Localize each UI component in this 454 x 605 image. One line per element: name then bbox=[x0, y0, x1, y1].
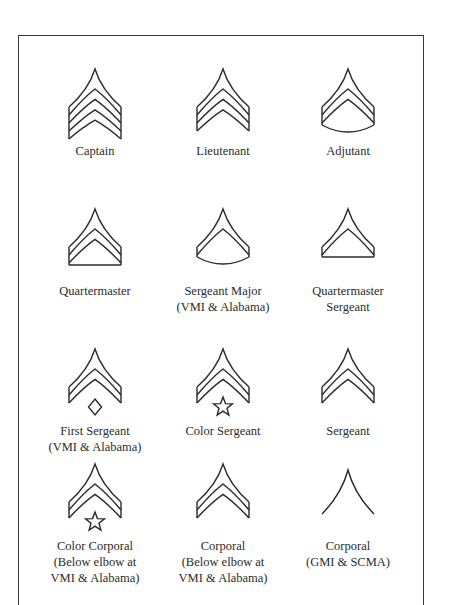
insignia-sergeant-major: Sergeant Major(VMI & Alabama) bbox=[158, 205, 288, 315]
insignia-quartermaster: Quartermaster bbox=[30, 205, 160, 299]
label-line: Quartermaster bbox=[283, 283, 413, 299]
insignia-adjutant: Adjutant bbox=[283, 65, 413, 159]
insignia-label: First Sergeant(VMI & Alabama) bbox=[30, 423, 160, 455]
insignia-label: Captain bbox=[30, 143, 160, 159]
lieutenant-insignia-icon bbox=[195, 65, 251, 139]
label-line: Lieutenant bbox=[158, 143, 288, 159]
label-line: (Below elbow at bbox=[30, 554, 160, 570]
chevron-stripe bbox=[69, 484, 121, 510]
chevron-outer bbox=[69, 69, 121, 107]
label-line: VMI & Alabama) bbox=[158, 570, 288, 586]
captain-insignia-icon bbox=[67, 65, 123, 139]
label-line: (GMI & SCMA) bbox=[283, 554, 413, 570]
insignia-sergeant: Sergeant bbox=[283, 345, 413, 439]
chevron-stripe bbox=[197, 89, 249, 115]
first-sergeant-insignia-icon bbox=[67, 345, 123, 419]
insignia-label: Corporal(Below elbow atVMI & Alabama) bbox=[158, 538, 288, 586]
corporal-gmi-insignia-icon bbox=[320, 460, 376, 534]
insignia-first-sergeant: First Sergeant(VMI & Alabama) bbox=[30, 345, 160, 455]
label-line: (VMI & Alabama) bbox=[30, 439, 160, 455]
insignia-label: Sergeant bbox=[283, 423, 413, 439]
label-line: Color Corporal bbox=[30, 538, 160, 554]
insignia-quartermaster-sergeant: QuartermasterSergeant bbox=[283, 205, 413, 315]
chevron-stripe bbox=[322, 369, 374, 395]
diamond-icon bbox=[89, 399, 102, 415]
chevron-outer bbox=[197, 69, 249, 107]
chevron-stripe bbox=[322, 89, 374, 115]
chevron-stripe bbox=[69, 229, 121, 255]
quartermaster-sergeant-insignia-icon bbox=[320, 205, 376, 279]
label-line: Adjutant bbox=[283, 143, 413, 159]
label-line: Sergeant bbox=[283, 423, 413, 439]
insignia-color-sergeant: Color Sergeant bbox=[158, 345, 288, 439]
corporal-vmi-insignia-icon bbox=[195, 460, 251, 534]
chevron-outer bbox=[69, 464, 121, 502]
chevron-outer bbox=[197, 464, 249, 502]
base-arc bbox=[197, 257, 249, 264]
chevron-stripe bbox=[322, 470, 374, 514]
insignia-label: Color Corporal(Below elbow atVMI & Alaba… bbox=[30, 538, 160, 586]
label-line: Captain bbox=[30, 143, 160, 159]
chevron-outer bbox=[197, 349, 249, 387]
insignia-color-corporal: Color Corporal(Below elbow atVMI & Alaba… bbox=[30, 460, 160, 586]
insignia-lieutenant: Lieutenant bbox=[158, 65, 288, 159]
chevron-outer bbox=[69, 349, 121, 387]
chevron-stripe bbox=[69, 89, 121, 115]
label-line: VMI & Alabama) bbox=[30, 570, 160, 586]
insignia-label: Corporal(GMI & SCMA) bbox=[283, 538, 413, 570]
insignia-label: Adjutant bbox=[283, 143, 413, 159]
chevron-stripe bbox=[197, 99, 249, 123]
insignia-corporal-vmi: Corporal(Below elbow atVMI & Alabama) bbox=[158, 460, 288, 586]
adjutant-insignia-icon bbox=[320, 65, 376, 139]
chevron-stripe bbox=[322, 229, 374, 255]
star-icon bbox=[85, 512, 104, 530]
chevron-stripe-bottom bbox=[197, 110, 249, 131]
label-line: Sergeant bbox=[283, 299, 413, 315]
chevron-outer bbox=[197, 209, 249, 247]
label-line: (Below elbow at bbox=[158, 554, 288, 570]
label-line: Color Sergeant bbox=[158, 423, 288, 439]
insignia-label: Color Sergeant bbox=[158, 423, 288, 439]
chevron-outer bbox=[322, 349, 374, 387]
chevron-outer bbox=[322, 69, 374, 107]
color-corporal-insignia-icon bbox=[67, 460, 123, 534]
chevron-stripe bbox=[69, 239, 121, 263]
color-sergeant-insignia-icon bbox=[195, 345, 251, 419]
label-line: Corporal bbox=[158, 538, 288, 554]
insignia-label: QuartermasterSergeant bbox=[283, 283, 413, 315]
sergeant-major-insignia-icon bbox=[195, 205, 251, 279]
sergeant-insignia-icon bbox=[320, 345, 376, 419]
chevron-stripe-bottom bbox=[197, 494, 249, 518]
insignia-captain: Captain bbox=[30, 65, 160, 159]
chevron-stripe bbox=[197, 229, 249, 255]
label-line: (VMI & Alabama) bbox=[158, 299, 288, 315]
chevron-stripe bbox=[69, 369, 121, 395]
chevron-stripe bbox=[197, 369, 249, 395]
base-arc bbox=[322, 125, 374, 132]
insignia-label: Lieutenant bbox=[158, 143, 288, 159]
label-line: Corporal bbox=[283, 538, 413, 554]
quartermaster-insignia-icon bbox=[67, 205, 123, 279]
insignia-corporal-gmi: Corporal(GMI & SCMA) bbox=[283, 460, 413, 570]
insignia-label: Sergeant Major(VMI & Alabama) bbox=[158, 283, 288, 315]
insignia-label: Quartermaster bbox=[30, 283, 160, 299]
chevron-outer bbox=[322, 209, 374, 247]
label-line: First Sergeant bbox=[30, 423, 160, 439]
chevron-stripe bbox=[197, 484, 249, 510]
chevron-stripe-bottom bbox=[322, 379, 374, 403]
chevron-outer bbox=[69, 209, 121, 247]
chevron-stripe bbox=[322, 99, 374, 123]
label-line: Sergeant Major bbox=[158, 283, 288, 299]
label-line: Quartermaster bbox=[30, 283, 160, 299]
star-icon bbox=[213, 397, 232, 415]
